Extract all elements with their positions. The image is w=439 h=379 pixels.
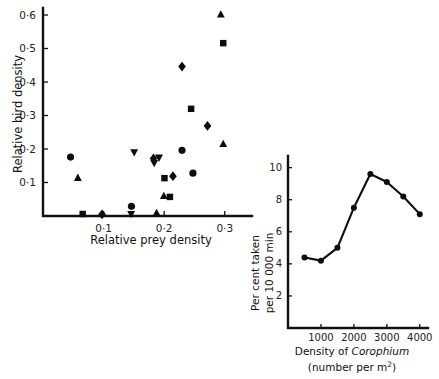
inset-y-tick-label: 2 (276, 290, 282, 301)
figure-canvas: 0·10·20·3 0·10·20·30·40·50·6 Relative pr… (0, 0, 439, 379)
marker-triangle-up (153, 209, 161, 216)
inset-data-points (301, 171, 422, 264)
marker-diamond (204, 121, 212, 131)
inset-data-point (351, 205, 357, 211)
x-tick-label: 0·3 (216, 222, 233, 234)
marker-diamond (169, 171, 177, 181)
marker-square (161, 175, 167, 181)
inset-line-plot: 1000200030004000 246810 Density of Corop… (249, 156, 432, 373)
inset-y-tick-label: 10 (269, 162, 282, 173)
inset-y-axis-title-line2: per 10 000 min (263, 233, 275, 314)
inset-x-title-prefix: Density of (295, 345, 352, 357)
marker-triangle-down (130, 149, 138, 156)
inset-data-point (384, 179, 390, 185)
main-axis-lines (43, 8, 252, 216)
inset-data-point (400, 193, 406, 199)
marker-square (188, 106, 194, 112)
inset-y-tick-label: 8 (276, 194, 282, 205)
marker-triangle-up (74, 174, 82, 181)
marker-triangle-up (219, 140, 227, 147)
marker-circle (189, 170, 196, 177)
marker-diamond (98, 209, 106, 219)
inset-x-axis-title-line1: Density of Corophium (295, 345, 409, 357)
main-data-markers (67, 10, 227, 219)
y-tick-label: 0·5 (19, 42, 36, 54)
y-tick-label: 0·1 (19, 176, 36, 188)
marker-diamond (178, 62, 186, 72)
inset-data-point (301, 254, 307, 260)
marker-triangle-up (160, 192, 168, 199)
marker-circle (178, 147, 185, 154)
y-tick-label: 0·6 (19, 9, 36, 21)
inset-data-point (318, 258, 324, 264)
inset-x-tick-label: 3000 (374, 332, 399, 343)
series-diamond-series (98, 62, 211, 219)
marker-circle (67, 153, 74, 160)
inset-x-title-units: (number per m (308, 361, 387, 373)
inset-x-tick-label: 4000 (407, 332, 432, 343)
marker-square (79, 211, 85, 217)
marker-triangle-up (217, 10, 225, 17)
series-circle-series (67, 147, 197, 210)
inset-x-tick-label: 2000 (341, 332, 366, 343)
main-scatter-plot: 0·10·20·3 0·10·20·30·40·50·6 Relative pr… (11, 8, 252, 247)
inset-data-point (417, 211, 423, 217)
inset-x-tick-label: 1000 (308, 332, 333, 343)
inset-y-axis-title-line1: Per cent taken (249, 235, 261, 311)
inset-y-tick-label: 6 (276, 226, 282, 237)
series-triangle-up-series (74, 10, 227, 216)
marker-square (167, 194, 173, 200)
inset-y-tick-label: 4 (276, 258, 282, 269)
inset-data-line (304, 174, 419, 261)
marker-square (220, 40, 226, 46)
inset-x-title-genus: Corophium (352, 345, 410, 357)
inset-data-point (367, 171, 373, 177)
inset-data-point (334, 245, 340, 251)
inset-axis-lines (288, 156, 428, 328)
main-y-axis-title: Relative bird density (11, 55, 25, 173)
inset-x-tick-labels: 1000200030004000 (308, 332, 432, 343)
inset-x-axis-title-line2: (number per m2) (308, 360, 396, 373)
main-x-axis-title: Relative prey density (90, 233, 212, 247)
series-square-series (79, 40, 226, 217)
inset-x-title-close: ) (392, 361, 396, 373)
marker-circle (128, 203, 135, 210)
